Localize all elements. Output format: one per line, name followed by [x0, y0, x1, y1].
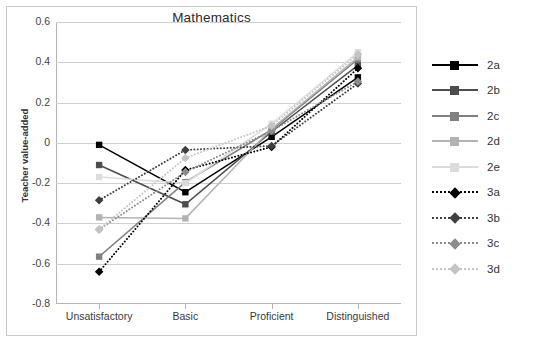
y-tick-label: 0.4 [4, 55, 50, 67]
x-tick-label: Unsatisfactory [66, 310, 133, 322]
data-point-2a [96, 142, 102, 148]
legend-marker-2e [450, 163, 459, 172]
chart-screenshot: Mathematics Teacher value-added 0.60.40.… [0, 0, 538, 344]
series-line-2e [99, 52, 358, 183]
y-tick-label: 0 [4, 135, 50, 147]
legend-label-3a: 3a [487, 186, 500, 198]
legend-marker-2a [450, 61, 459, 70]
legend-label-2d: 2d [487, 135, 500, 147]
legend-label-2b: 2b [487, 84, 500, 96]
legend-swatch-2a [432, 59, 478, 71]
legend-marker-3b [449, 213, 460, 224]
legend-marker-3d [449, 264, 460, 275]
x-tick-label: Distinguished [326, 310, 389, 322]
x-tick-mark [99, 304, 100, 309]
y-tick-label: -0.4 [4, 216, 50, 228]
legend-label-2a: 2a [487, 59, 500, 71]
legend-swatch-2b [432, 84, 478, 96]
data-point-2e [96, 174, 102, 180]
legend-swatch-2d [432, 135, 478, 147]
legend-marker-3a [449, 187, 460, 198]
y-tick-label: 0.2 [4, 95, 50, 107]
data-point-3b [181, 146, 189, 154]
data-point-2d [182, 215, 188, 221]
legend-label-2c: 2c [487, 110, 499, 122]
series-line-2d [99, 57, 358, 218]
legend-item-2d[interactable]: 2d [432, 129, 532, 155]
data-point-2a [182, 189, 188, 195]
data-point-2b [96, 162, 102, 168]
legend-swatch-3c [432, 237, 478, 249]
legend-item-2b[interactable]: 2b [432, 78, 532, 104]
data-point-3b [267, 142, 275, 150]
x-tick-mark [185, 304, 186, 309]
legend-label-2e: 2e [487, 161, 500, 173]
legend-swatch-3a [432, 186, 478, 198]
data-point-2d [96, 214, 102, 220]
legend: 2a2b2c2d2e3a3b3c3d [432, 52, 532, 282]
x-tick-label: Proficient [250, 310, 294, 322]
legend-swatch-2c [432, 110, 478, 122]
series-line-3a [99, 68, 358, 271]
legend-swatch-2e [432, 161, 478, 173]
data-point-2c [96, 253, 102, 259]
legend-marker-2b [450, 86, 459, 95]
legend-item-3a[interactable]: 3a [432, 180, 532, 206]
y-tick-label: 0.6 [4, 15, 50, 27]
y-tick-label: -0.8 [4, 297, 50, 309]
legend-label-3b: 3b [487, 212, 500, 224]
legend-item-3b[interactable]: 3b [432, 205, 532, 231]
y-tick-label: -0.6 [4, 256, 50, 268]
legend-marker-2c [450, 112, 459, 121]
legend-marker-3c [449, 238, 460, 249]
y-tick-label: -0.2 [4, 176, 50, 188]
x-tick-mark [272, 304, 273, 309]
legend-label-3c: 3c [487, 237, 499, 249]
legend-item-3d[interactable]: 3d [432, 256, 532, 282]
legend-item-2c[interactable]: 2c [432, 103, 532, 129]
legend-swatch-3b [432, 212, 478, 224]
legend-label-3d: 3d [487, 263, 500, 275]
series-lines [56, 22, 401, 304]
legend-marker-2d [450, 137, 459, 146]
legend-item-2e[interactable]: 2e [432, 154, 532, 180]
x-tick-mark [358, 304, 359, 309]
data-point-2e [182, 180, 188, 186]
legend-swatch-3d [432, 263, 478, 275]
plot-area: UnsatisfactoryBasicProficientDistinguish… [56, 22, 401, 304]
x-tick-label: Basic [173, 310, 199, 322]
legend-item-3c[interactable]: 3c [432, 231, 532, 257]
data-point-3b [95, 196, 103, 204]
data-point-2b [182, 201, 188, 207]
data-point-3d [181, 154, 189, 162]
series-line-2b [99, 65, 358, 204]
legend-item-2a[interactable]: 2a [432, 52, 532, 78]
